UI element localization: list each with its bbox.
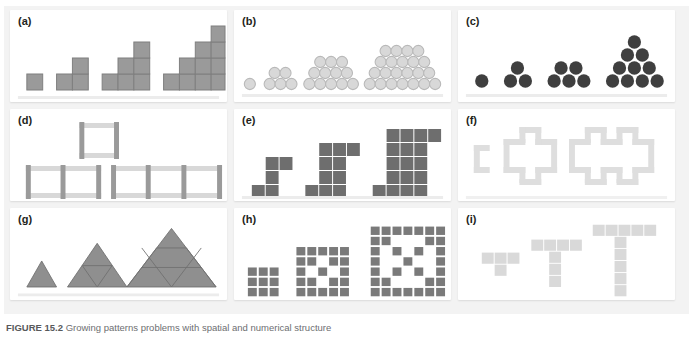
- figure-caption: FIGURE 15.2 Growing patterns problems wi…: [6, 322, 666, 333]
- panel-i-graphic: [458, 208, 675, 300]
- panel-label-c: (c): [466, 15, 479, 27]
- panel-e-graphic: [234, 109, 451, 201]
- panel-a-staircase-squares: (a): [10, 10, 227, 102]
- panel-grid: (a) (b): [10, 10, 675, 300]
- panel-d-graphic: [10, 109, 227, 201]
- panel-a-graphic: [10, 10, 227, 102]
- panel-label-e: (e): [242, 114, 255, 126]
- panel-f-perimeter-fractal: (f): [458, 109, 675, 201]
- panel-label-h: (h): [242, 213, 256, 225]
- panel-b-circle-stacks: (b): [234, 10, 451, 102]
- panel-d-matchstick-squares: (d): [10, 109, 227, 201]
- panel-i-t-shapes: (i): [458, 208, 675, 300]
- panel-f-graphic: [458, 109, 675, 201]
- panel-c-dark-triangular-numbers: (c): [458, 10, 675, 102]
- panel-h-graphic: [234, 208, 451, 300]
- figure-root: (a) (b): [0, 0, 693, 338]
- panel-h-square-fractal: (h): [234, 208, 451, 300]
- panel-c-graphic: [458, 10, 675, 102]
- panel-label-g: (g): [18, 213, 32, 225]
- panel-label-a: (a): [18, 15, 31, 27]
- panel-label-d: (d): [18, 114, 32, 126]
- caption-text: Growing patterns problems with spatial a…: [66, 322, 332, 333]
- panel-e-block-growth: (e): [234, 109, 451, 201]
- panel-label-f: (f): [466, 114, 477, 126]
- panel-label-i: (i): [466, 213, 476, 225]
- panel-g-subdivided-triangles: (g): [10, 208, 227, 300]
- panel-b-graphic: [234, 10, 451, 102]
- panel-label-b: (b): [242, 15, 256, 27]
- caption-label: FIGURE 15.2: [6, 322, 63, 333]
- panel-g-graphic: [10, 208, 227, 300]
